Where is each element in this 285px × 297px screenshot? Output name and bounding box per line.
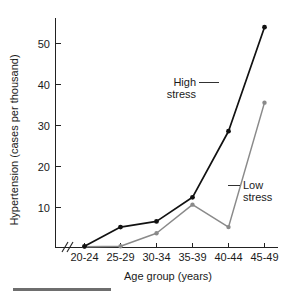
data-point: [118, 244, 122, 248]
annotation-low-stress-line2: stress: [243, 191, 273, 203]
y-tick-label-50: 50: [38, 38, 50, 50]
x-tick-label-30-34: 30-34: [142, 251, 170, 263]
data-point: [262, 100, 266, 104]
data-point: [262, 25, 267, 30]
series-markers-low-stress: [82, 100, 266, 248]
data-point: [154, 219, 159, 224]
annotation-low-stress: Low stress: [228, 179, 273, 203]
annotation-high-stress: High stress: [167, 76, 219, 100]
series-line-low-stress: [85, 103, 265, 247]
caption-rule: [13, 288, 111, 291]
hypertension-line-chart: 50 40 30 20 10 20-24 25-29 30-34 35-39 4…: [0, 0, 285, 297]
series-line-high-stress: [85, 27, 265, 246]
x-tick-label-20-24: 20-24: [70, 251, 98, 263]
y-tick-label-20: 20: [38, 161, 50, 173]
y-tick-label-10: 10: [38, 202, 50, 214]
y-tick-label-30: 30: [38, 120, 50, 132]
data-point: [190, 195, 195, 200]
data-point: [226, 225, 230, 229]
y-axis-title: Hypertension (cases per thousand): [8, 54, 20, 225]
annotation-low-stress-line1: Low: [243, 179, 263, 191]
annotation-high-stress-line1: High: [173, 76, 196, 88]
series-markers-high-stress: [82, 25, 267, 249]
x-tick-label-35-39: 35-39: [178, 251, 206, 263]
data-point: [154, 231, 158, 235]
data-point: [118, 225, 123, 230]
annotation-high-stress-line2: stress: [167, 88, 197, 100]
y-tick-marks: [56, 44, 61, 208]
data-point: [82, 244, 87, 249]
x-tick-label-25-29: 25-29: [106, 251, 134, 263]
data-point: [226, 129, 231, 134]
data-point: [190, 202, 194, 206]
x-tick-label-45-49: 45-49: [250, 251, 278, 263]
x-axis-title: Age group (years): [124, 270, 212, 282]
y-tick-label-40: 40: [38, 79, 50, 91]
chart-figure: 50 40 30 20 10 20-24 25-29 30-34 35-39 4…: [0, 0, 285, 297]
x-tick-label-40-44: 40-44: [214, 251, 242, 263]
